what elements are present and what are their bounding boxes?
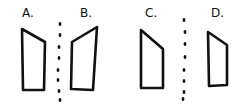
dot bbox=[59, 98, 62, 102]
shape-option-a bbox=[22, 29, 45, 90]
dot bbox=[58, 45, 61, 49]
shape-option-d bbox=[208, 32, 227, 86]
dot bbox=[183, 79, 186, 83]
dot bbox=[59, 33, 62, 37]
symmetry-diagram: A. B. C. D. bbox=[0, 0, 240, 112]
dotted-line-right bbox=[182, 18, 187, 101]
dot bbox=[184, 30, 187, 34]
dot bbox=[184, 42, 187, 46]
dot bbox=[182, 97, 185, 101]
dotted-line-left bbox=[57, 22, 62, 102]
dot bbox=[57, 68, 60, 72]
shape-option-b bbox=[71, 27, 97, 90]
dot bbox=[184, 55, 187, 59]
dot bbox=[183, 68, 186, 72]
dot bbox=[58, 89, 61, 93]
dot bbox=[183, 90, 186, 94]
quadrilateral-shapes bbox=[22, 27, 227, 90]
diagram-drawing bbox=[0, 0, 240, 112]
dot bbox=[59, 22, 62, 26]
dot bbox=[58, 56, 61, 60]
dot bbox=[183, 18, 186, 22]
dot bbox=[57, 78, 60, 82]
shape-option-c bbox=[141, 30, 163, 88]
